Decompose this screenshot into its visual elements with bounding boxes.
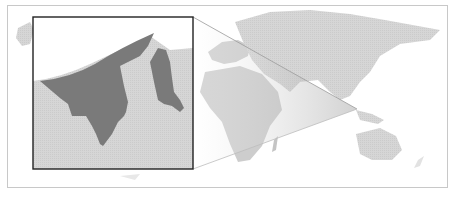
australia (356, 128, 402, 160)
greenland (16, 22, 34, 46)
southeast-asia-islands (356, 110, 384, 124)
brunei-inset (33, 17, 193, 169)
new-zealand (414, 156, 424, 168)
antarctica-hint (120, 174, 140, 180)
world-map (0, 0, 457, 197)
